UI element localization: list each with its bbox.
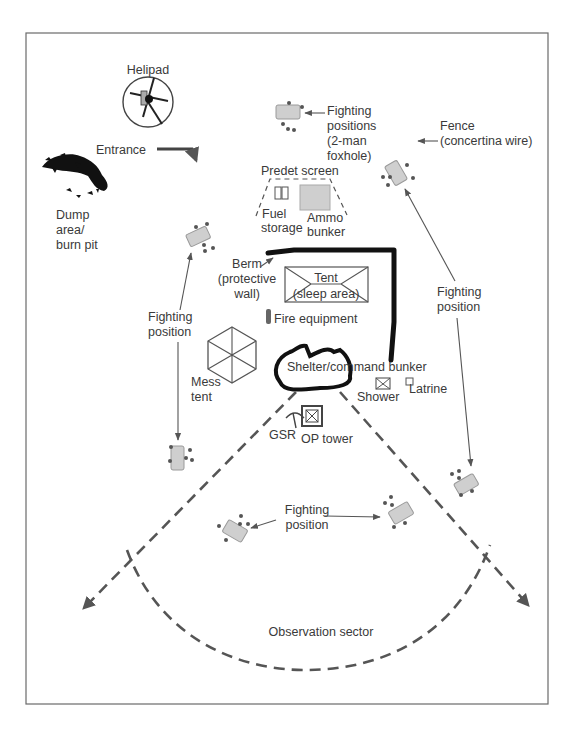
latrine-label: Latrine	[409, 382, 447, 396]
fighting-position-left-label-line2: position	[148, 325, 191, 339]
camp-layout-diagram: Helipad Entrance Dump area/ burn pit Fig…	[0, 0, 570, 729]
dump-label-line2: area/	[56, 223, 85, 237]
fighting-position-bottom-label-line2: position	[285, 518, 328, 532]
fence-label-line1: Fence	[440, 119, 475, 133]
fighting-position-bottom-label-line1: Fighting	[285, 503, 330, 517]
fire-extinguisher-icon	[266, 309, 271, 324]
tent-label-line2: (sleep area)	[293, 287, 360, 301]
entrance-label: Entrance	[96, 143, 146, 157]
helipad-label: Helipad	[127, 63, 169, 77]
fire-equipment-label: Fire equipment	[274, 312, 358, 326]
mess-tent-label-line2: tent	[191, 390, 212, 404]
mess-tent-label-line1: Mess	[191, 375, 221, 389]
fighting-positions-label-line4: foxhole)	[327, 149, 371, 163]
fuel-storage-label-line2: storage	[261, 221, 303, 235]
fighting-positions-label-line2: positions	[327, 119, 376, 133]
tent-label-line1: Tent	[314, 271, 338, 285]
fence-label-line2: (concertina wire)	[440, 134, 532, 148]
dump-label-line1: Dump	[56, 208, 89, 222]
ammo-bunker-icon	[300, 185, 330, 210]
fighting-position-right-label-line2: position	[437, 300, 480, 314]
shower-label: Shower	[357, 390, 399, 404]
berm-label-line3: wall)	[233, 287, 260, 301]
fuel-storage-label-line1: Fuel	[262, 207, 286, 221]
shelter-command-bunker-label: Shelter/command bunker	[287, 360, 427, 374]
dump-label-line3: burn pit	[56, 238, 98, 252]
fighting-position-left-label-line1: Fighting	[148, 310, 193, 324]
berm-label-line2: (protective	[218, 272, 276, 286]
fighting-position-right-label-line1: Fighting	[437, 285, 482, 299]
ammo-bunker-label-line2: bunker	[307, 225, 345, 239]
fighting-positions-label-line3: (2-man	[327, 134, 367, 148]
fighting-positions-label-line1: Fighting	[327, 104, 372, 118]
predet-screen-label: Predet screen	[261, 164, 339, 178]
op-tower-label: OP tower	[301, 432, 353, 446]
ammo-bunker-label-line1: Ammo	[307, 211, 343, 225]
gsr-label: GSR	[269, 428, 296, 442]
berm-label-line1: Berm	[232, 257, 262, 271]
observation-sector-label: Observation sector	[269, 625, 374, 639]
